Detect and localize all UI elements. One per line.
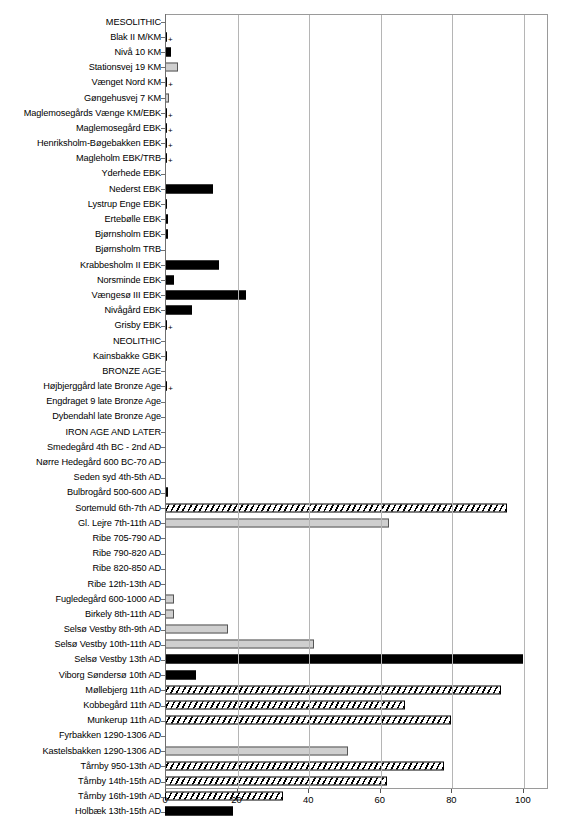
bar — [165, 184, 213, 193]
y-tick — [161, 204, 165, 205]
category-label: Lystrup Enge EBK — [0, 199, 165, 209]
bar — [165, 746, 348, 755]
y-tick — [161, 234, 165, 235]
category-label: Ertebølle EBK — [0, 214, 165, 224]
y-tick — [161, 219, 165, 220]
chart-row: Vænget Nord KM+ — [0, 75, 563, 90]
bar-track — [165, 166, 548, 181]
x-tick-label: 20 — [231, 794, 241, 805]
bar-track — [165, 637, 548, 652]
bar-track — [165, 713, 548, 728]
y-tick — [161, 356, 165, 357]
y-tick — [161, 751, 165, 752]
chart-row: Fyrbakken 1290-1306 AD — [0, 728, 563, 743]
category-label: Smedegård 4th BC - 2nd AD — [0, 442, 165, 452]
chart-row: Krabbesholm II EBK — [0, 257, 563, 272]
bar-track — [165, 758, 548, 773]
chart-row: Kastelsbakken 1290-1306 AD — [0, 743, 563, 758]
category-label: Nivå 10 KM — [0, 47, 165, 57]
y-tick — [161, 721, 165, 722]
chart-row: Nørre Hedegård 600 BC-70 AD — [0, 454, 563, 469]
chart-row: Selsø Vestby 8th-9th AD — [0, 622, 563, 637]
plus-marker: + — [168, 157, 173, 165]
y-tick — [161, 782, 165, 783]
y-tick — [161, 447, 165, 448]
chart-row: Birkely 8th-11th AD — [0, 606, 563, 621]
x-axis: 020406080100 — [165, 789, 548, 829]
bar — [165, 275, 174, 284]
bar-track: + — [165, 136, 548, 151]
y-tick — [161, 736, 165, 737]
bar — [165, 655, 523, 664]
bar-track — [165, 303, 548, 318]
bar-track — [165, 500, 548, 515]
y-tick — [161, 174, 165, 175]
y-tick — [161, 538, 165, 539]
x-tick-label: 100 — [515, 794, 531, 805]
bar-track — [165, 470, 548, 485]
bar — [165, 306, 192, 315]
category-label: Bulbrogård 500-600 AD — [0, 487, 165, 497]
chart-row: Smedegård 4th BC - 2nd AD — [0, 439, 563, 454]
category-label: Nederst EBK — [0, 184, 165, 194]
bar-track — [165, 439, 548, 454]
category-label: Ribe 12th-13th AD — [0, 579, 165, 589]
bar-track — [165, 606, 548, 621]
category-label: Norsminde EBK — [0, 275, 165, 285]
bar-track — [165, 242, 548, 257]
category-label: Kobbegård 11th AD — [0, 700, 165, 710]
category-label: Selsø Vestby 10th-11th AD — [0, 639, 165, 649]
bar-track — [165, 227, 548, 242]
plus-marker: + — [168, 127, 173, 135]
category-label: Munkerup 11th AD — [0, 715, 165, 725]
bar — [165, 518, 389, 527]
chart-row: Bjørnsholm EBK — [0, 227, 563, 242]
category-label: Selsø Vestby 8th-9th AD — [0, 624, 165, 634]
category-label: Ribe 705-790 AD — [0, 533, 165, 543]
category-label: Blak II M/KM — [0, 32, 165, 42]
y-tick — [161, 158, 165, 159]
bar — [165, 260, 219, 269]
category-label: Kainsbakke GBK — [0, 351, 165, 361]
chart-row: Engdraget 9 late Bronze Age — [0, 394, 563, 409]
bar-track — [165, 333, 548, 348]
bar-track — [165, 561, 548, 576]
y-tick — [161, 250, 165, 251]
y-tick — [161, 675, 165, 676]
y-tick — [161, 37, 165, 38]
chart-row: Kainsbakke GBK — [0, 348, 563, 363]
y-tick — [161, 82, 165, 83]
category-label: Ribe 790-820 AD — [0, 548, 165, 558]
chart-row: Maglemosegårds Vænge KM/EBK+ — [0, 105, 563, 120]
bar — [165, 503, 507, 512]
bar-track — [165, 546, 548, 561]
chart-row: Ertebølle EBK — [0, 211, 563, 226]
y-tick — [161, 402, 165, 403]
bar-track — [165, 211, 548, 226]
group-header-label: BRONZE AGE — [0, 366, 165, 376]
bar-track — [165, 14, 548, 29]
bar-track: + — [165, 29, 548, 44]
chart-row: Magleholm EBK/TRB+ — [0, 151, 563, 166]
x-tick — [165, 789, 166, 793]
category-label: Selsø Vestby 13th AD — [0, 654, 165, 664]
x-tick-label: 40 — [303, 794, 313, 805]
bar-track: + — [165, 120, 548, 135]
category-label: Maglemosegård EBK — [0, 123, 165, 133]
x-tick — [380, 789, 381, 793]
chart-row: Nivågård EBK — [0, 303, 563, 318]
category-label: Ribe 820-850 AD — [0, 563, 165, 573]
chart-row: Møllebjerg 11th AD — [0, 682, 563, 697]
chart-row: Tårnby 950-13th AD — [0, 758, 563, 773]
category-label: Bjørnsholm EBK — [0, 229, 165, 239]
chart-row: Bulbrogård 500-600 AD — [0, 485, 563, 500]
chart-row: Lystrup Enge EBK — [0, 196, 563, 211]
category-label: Viborg Søndersø 10th AD — [0, 670, 165, 680]
y-tick — [161, 386, 165, 387]
y-tick — [161, 22, 165, 23]
plus-marker: + — [168, 81, 173, 89]
y-tick — [161, 614, 165, 615]
y-tick — [161, 690, 165, 691]
category-label: Nørre Hedegård 600 BC-70 AD — [0, 457, 165, 467]
bar-track: + — [165, 318, 548, 333]
